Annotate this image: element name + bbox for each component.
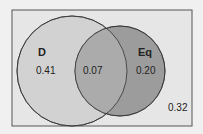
set-d-only-value: 0.41 [36,65,56,76]
outside-value: 0.32 [168,102,188,113]
set-eq-only-value: 0.20 [136,65,156,76]
intersection-value: 0.07 [83,65,103,76]
set-eq-label: Eq [138,46,152,58]
set-d-label: D [38,46,46,58]
venn-diagram: D 0.41 0.07 Eq 0.20 0.32 [0,0,203,134]
